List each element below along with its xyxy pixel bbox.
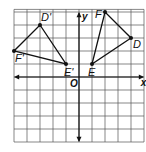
x-axis-label: x <box>140 77 146 88</box>
y-axis-up-arrow-icon <box>77 12 82 17</box>
vertex-label: D' <box>41 11 52 23</box>
vertex-label: E <box>88 66 96 78</box>
y-axis-label: y <box>81 11 88 22</box>
vertex-point <box>38 23 42 27</box>
vertex-label: E' <box>64 66 74 78</box>
y-axis-down-arrow-icon <box>77 137 82 142</box>
coordinate-plane: xyODEFD'E'F' <box>0 0 146 152</box>
x-axis-left-arrow-icon <box>14 75 19 80</box>
vertex-label: D <box>133 38 141 50</box>
vertex-label: F <box>95 8 103 20</box>
origin-label: O <box>70 78 78 89</box>
vertex-label: F' <box>15 52 25 64</box>
vertex-point <box>103 10 107 14</box>
triangle-def: DEF <box>88 8 141 78</box>
triangle-def-prime: D'E'F' <box>12 11 74 78</box>
